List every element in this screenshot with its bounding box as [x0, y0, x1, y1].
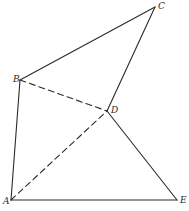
edge-ab-solid: [11, 80, 20, 200]
edges-group: [11, 7, 177, 200]
vertex-labels-group: ABCDE: [2, 1, 187, 206]
vertex-label-b: B: [12, 74, 20, 84]
edge-ad-dashed: [11, 111, 107, 200]
edge-de-solid: [107, 111, 177, 200]
edge-bc-solid: [20, 7, 155, 80]
vertex-label-d: D: [110, 105, 118, 115]
vertex-label-c: C: [158, 1, 165, 11]
vertex-label-e: E: [179, 195, 187, 205]
vertex-label-a: A: [2, 196, 10, 206]
geometric-diagram: ABCDE: [0, 0, 189, 211]
edge-cd-solid: [107, 7, 155, 111]
edge-bd-dashed: [20, 80, 107, 111]
